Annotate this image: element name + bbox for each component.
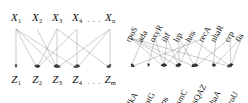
node-subscript: 1 (18, 17, 21, 24)
panel-generic-bipartite: X1X2X3X4XnZ1Z2Z3Z4Zm· · ·· · · (0, 0, 124, 103)
node-label-zm: Zm (104, 74, 115, 85)
edge-arrowhead (15, 65, 18, 68)
ecoli-graph-edges (124, 0, 248, 103)
graph-edge (16, 29, 77, 68)
graph-edge (16, 29, 37, 68)
node-subscript: 1 (18, 79, 21, 86)
node-subscript: 2 (39, 79, 42, 86)
bipartite-network-figure: X1X2X3X4XnZ1Z2Z3Z4Zm· · ·· · · rpoSadaox… (0, 0, 248, 103)
node-subscript: 3 (59, 17, 62, 24)
node-subscript: 4 (79, 17, 82, 24)
node-label-x1: X1 (11, 12, 21, 23)
node-subscript: n (112, 17, 115, 24)
edge-arrowhead (147, 63, 150, 67)
node-label-x4: X4 (72, 12, 82, 23)
node-label-xn: Xn (105, 12, 115, 23)
node-label-z2: Z2 (32, 74, 41, 85)
graph-edge (77, 29, 110, 68)
graph-edge (16, 29, 57, 68)
node-label-x2: X2 (32, 12, 42, 23)
ellipsis-bottom: · · · (87, 80, 101, 88)
node-subscript: 4 (79, 79, 82, 86)
edge-arrowhead (179, 63, 182, 67)
ellipsis-top: · · · (87, 18, 101, 26)
node-label-z3: Z3 (52, 74, 61, 85)
node-subscript: 3 (59, 79, 62, 86)
node-label-z4: Z4 (72, 74, 81, 85)
node-subscript: 2 (39, 17, 42, 24)
node-subscript: m (111, 79, 116, 86)
graph-edge (131, 38, 164, 67)
panel-ecoli-network: rpoSadaoxyRihflrphnsrecAnhaRcrpfisalkAka… (124, 0, 248, 103)
edge-arrowhead (231, 63, 234, 67)
node-label-z1: Z1 (11, 74, 20, 85)
node-label-x3: X3 (52, 12, 62, 23)
